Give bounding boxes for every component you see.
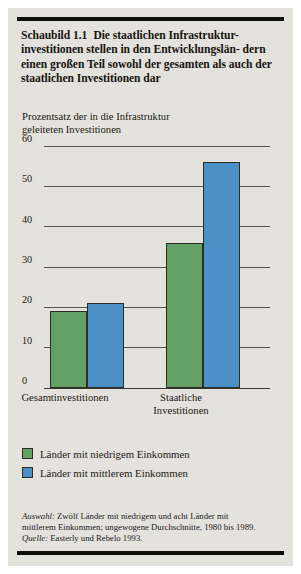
notes-quelle-label: Quelle: xyxy=(22,533,48,543)
y-axis-tick-0: 0 xyxy=(22,376,41,386)
figure-panel: Schaubild 1.1Die staatlichen Infrastrukt… xyxy=(0,0,301,574)
figure-number: Schaubild 1.1 xyxy=(21,29,87,42)
y-axis-tick-10: 10 xyxy=(22,336,41,346)
bar-0-0 xyxy=(50,311,87,388)
legend-label-middle-income: Länder mit mittlerem Einkommen xyxy=(40,467,188,479)
y-axis-tick-30: 30 xyxy=(22,255,41,265)
bar-1-0 xyxy=(166,243,203,388)
legend-swatch-blue-icon xyxy=(22,467,33,478)
y-axis-title: Prozentsatz der in die Infrastruktur gel… xyxy=(22,110,252,136)
y-axis-tick-20: 20 xyxy=(22,295,41,305)
y-axis-tick-60: 60 xyxy=(22,134,41,144)
notes-auswahl-label: Auswahl: xyxy=(22,511,55,521)
figure-notes: Auswahl: Zwölf Länder mit niedrigem und … xyxy=(22,511,280,544)
x-axis-label-gesamtinvestitionen: Gesamtinvestitionen xyxy=(0,392,130,405)
figure-title-line2: investitionen stellen in den Entwicklung… xyxy=(21,43,240,56)
x-axis-label-staatliche-investitionen: Staatliche Investitionen xyxy=(116,392,246,417)
notes-line-2: mittlerem Einkommen; ungewogene Durchsch… xyxy=(22,522,280,533)
x-axis-label-text-line1: Staatliche xyxy=(116,392,246,405)
y-axis-tick-50: 50 xyxy=(22,174,41,184)
x-axis-labels: Gesamtinvestitionen Staatliche Investiti… xyxy=(22,392,270,426)
notes-line-1: Auswahl: Zwölf Länder mit niedrigem und … xyxy=(22,511,280,522)
bar-group-container xyxy=(44,146,270,388)
x-axis-label-text-line2: Investitionen xyxy=(116,405,246,418)
y-axis-tick-40: 40 xyxy=(22,215,41,225)
y-axis-title-line2: geleiteten Investitionen xyxy=(22,123,252,136)
x-axis-label-text: Gesamtinvestitionen xyxy=(0,392,130,405)
bottom-rule xyxy=(17,551,284,555)
legend-label-low-income: Länder mit niedrigem Einkommen xyxy=(40,448,190,460)
chart-legend: Länder mit niedrigem Einkommen Länder mi… xyxy=(22,444,272,482)
legend-item-low-income: Länder mit niedrigem Einkommen xyxy=(22,444,272,463)
legend-swatch-green-icon xyxy=(22,448,33,459)
figure-title-line1: Die staatlichen Infrastruktur- xyxy=(93,29,239,42)
notes-quelle-text: Easterly und Rebelo 1993. xyxy=(48,533,142,543)
y-axis-title-line1: Prozentsatz der in die Infrastruktur xyxy=(22,110,252,123)
bar-chart-plot: 0102030405060 xyxy=(22,146,270,388)
notes-auswahl-text: Zwölf Länder mit niedrigem und acht Länd… xyxy=(55,511,229,521)
top-rule xyxy=(17,17,284,21)
legend-item-middle-income: Länder mit mittlerem Einkommen xyxy=(22,463,272,482)
bar-1-1 xyxy=(203,162,240,388)
figure-title: Schaubild 1.1Die staatlichen Infrastrukt… xyxy=(21,29,279,87)
bar-0-1 xyxy=(87,303,124,388)
notes-line-3: Quelle: Easterly und Rebelo 1993. xyxy=(22,533,280,544)
plot-area: 0102030405060 xyxy=(22,146,270,388)
